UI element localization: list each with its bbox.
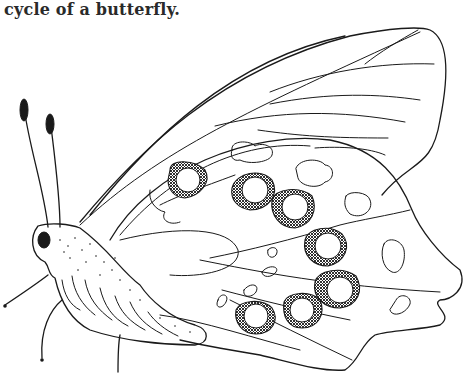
hindwing [110, 138, 462, 370]
antennae [20, 99, 60, 227]
butterfly-illustration [0, 0, 474, 375]
legs [3, 275, 120, 372]
butterfly-body [33, 224, 207, 345]
wing-lobe [120, 231, 238, 276]
eyespots [168, 162, 359, 334]
